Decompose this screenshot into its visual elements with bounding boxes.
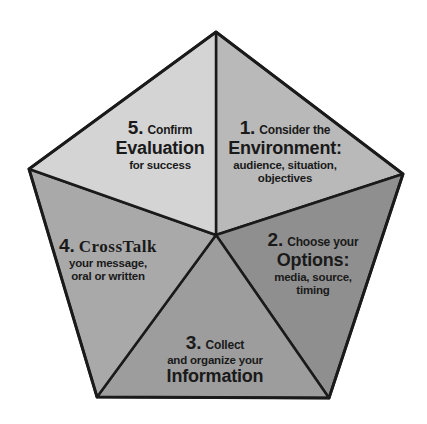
segment-4-desc-line1: your message, — [59, 257, 157, 269]
segment-2-keyword: Options: — [268, 251, 359, 270]
segment-2-number: 2. — [268, 229, 283, 250]
pentagon-diagram: 1. Consider the Environment: audience, s… — [0, 0, 427, 424]
segment-5-label: 5. Confirm Evaluation for success — [115, 118, 204, 171]
segment-2-desc-line1: media, source, — [268, 271, 359, 283]
segment-5-number: 5. — [128, 117, 143, 138]
segment-2-desc-line2: timing — [268, 284, 359, 296]
segment-4-label: 4. CrossTalk your message, oral or writt… — [59, 236, 157, 282]
segment-4-keyword: CrossTalk — [79, 237, 157, 256]
segment-2-label: 2. Choose your Options: media, source, t… — [268, 230, 359, 296]
segment-1-number: 1. — [240, 117, 255, 138]
segment-1-lead: Consider the — [259, 123, 330, 137]
segment-1-keyword: Environment: — [228, 139, 342, 158]
segment-2-lead: Choose your — [287, 235, 358, 249]
segment-5-lead: Confirm — [148, 123, 193, 137]
segment-3-keyword: Information — [167, 367, 264, 386]
segment-1-desc-line2: objectives — [228, 172, 342, 184]
segment-4-desc-line2: oral or written — [59, 270, 157, 282]
segment-4-number: 4. — [59, 235, 74, 256]
segment-5-desc-line1: for success — [115, 159, 204, 171]
segment-1-desc-line1: audience, situation, — [228, 159, 342, 171]
segment-3-desc-line1: and organize your — [167, 354, 264, 366]
segment-5-keyword: Evaluation — [115, 139, 204, 158]
segment-3-label: 3. Collect and organize your Information — [167, 333, 264, 386]
segment-3-lead: Collect — [206, 338, 245, 352]
segment-1-label: 1. Consider the Environment: audience, s… — [228, 118, 342, 184]
segment-3-number: 3. — [186, 332, 201, 353]
